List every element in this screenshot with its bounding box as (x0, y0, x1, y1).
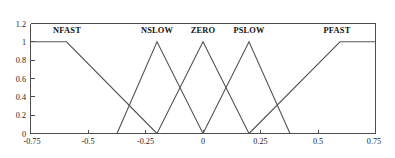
x-tick-labels: -0.75 -0.5 -0.25 0 0.25 0.5 0.75 (23, 137, 381, 146)
mf-curve-zero (157, 42, 249, 134)
y-tick-label: 0.2 (16, 111, 26, 120)
y-tick-label: 0.4 (16, 93, 26, 102)
x-tick-label: -0.5 (82, 137, 95, 146)
plot-svg: -0.75 -0.5 -0.25 0 0.25 0.5 0.75 0 0.2 0… (0, 0, 395, 158)
mf-curve-nfast (31, 42, 158, 134)
y-tick-label: 1 (22, 38, 26, 47)
x-tick-label: 0 (201, 137, 205, 146)
y-tick-label: 0 (22, 130, 26, 139)
mf-curve-nslow (117, 42, 203, 134)
y-tick-marks (31, 24, 35, 134)
series-labels: NFAST NSLOW ZERO PSLOW PFAST (53, 26, 351, 35)
x-tick-label: -0.75 (23, 137, 40, 146)
membership-function-chart: -0.75 -0.5 -0.25 0 0.25 0.5 0.75 0 0.2 0… (0, 0, 395, 158)
x-tick-label: 0.25 (253, 137, 267, 146)
x-tick-label: -0.25 (137, 137, 154, 146)
y-tick-label: 0.6 (16, 75, 26, 84)
membership-curves (31, 42, 376, 134)
series-label-pslow: PSLOW (233, 26, 265, 35)
x-tick-label: 0.75 (367, 137, 381, 146)
series-label-pfast: PFAST (324, 26, 351, 35)
y-tick-label: 1.2 (16, 20, 26, 29)
series-label-zero: ZERO (191, 26, 216, 35)
plot-frame (31, 24, 376, 134)
series-label-nfast: NFAST (53, 26, 81, 35)
y-tick-labels: 0 0.2 0.4 0.6 0.8 1 1.2 (16, 20, 26, 139)
mf-curve-pslow (203, 42, 290, 134)
x-tick-label: 0.5 (313, 137, 323, 146)
mf-curve-pfast (249, 42, 376, 134)
series-label-nslow: NSLOW (141, 26, 174, 35)
y-tick-label: 0.8 (16, 56, 26, 65)
